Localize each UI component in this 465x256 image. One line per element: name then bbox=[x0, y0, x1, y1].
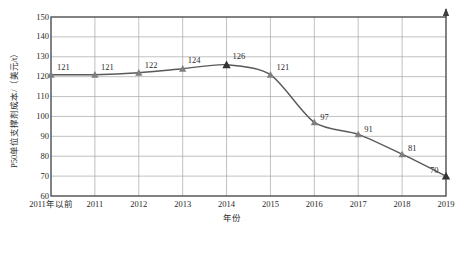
data-point-label: 126 bbox=[233, 52, 246, 61]
data-point-label: 124 bbox=[188, 56, 201, 65]
data-point-label: 121 bbox=[276, 63, 289, 72]
data-point-label: 91 bbox=[364, 125, 373, 134]
x-tick-label: 2013 bbox=[174, 200, 191, 209]
x-tick-label: 2018 bbox=[394, 200, 411, 209]
data-point-label: 121 bbox=[57, 63, 70, 72]
data-point-label: 122 bbox=[145, 61, 158, 70]
x-tick-label: 2015 bbox=[262, 200, 279, 209]
x-tick-label: 2014 bbox=[218, 200, 235, 209]
x-axis-title: 年份 bbox=[223, 214, 241, 223]
data-point-label: 97 bbox=[320, 113, 329, 122]
x-tick-label: 2017 bbox=[350, 200, 367, 209]
x-tick-label: 2016 bbox=[306, 200, 323, 209]
data-point-label: 70 bbox=[430, 166, 439, 175]
data-point-label: 81 bbox=[408, 144, 417, 153]
x-tick-label: 2019 bbox=[438, 200, 455, 209]
chart-container: P50单位支撑剂成本/（美元/t） 1501401301201101009080… bbox=[0, 0, 465, 256]
x-tick-label: 2011年以前 bbox=[29, 200, 73, 209]
x-tick-label: 2011 bbox=[87, 200, 104, 209]
data-point-label: 121 bbox=[101, 63, 114, 72]
x-tick-label: 2012 bbox=[130, 200, 147, 209]
